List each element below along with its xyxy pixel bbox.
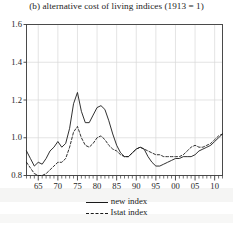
chart-plot-area	[0, 0, 233, 229]
y-tick-label: 0.8	[0, 171, 22, 180]
x-tick-label: 10	[205, 182, 225, 191]
x-tick-label: 65	[28, 182, 48, 191]
chart-legend: new index Istat index	[0, 196, 233, 219]
x-tick-label: 05	[185, 182, 205, 191]
legend-label-istat-index: Istat index	[111, 208, 148, 218]
x-tick-label: 85	[107, 182, 127, 191]
x-tick-label: 90	[126, 182, 146, 191]
series-line-istat-index	[27, 126, 223, 175]
series-line-new-index	[27, 92, 223, 166]
y-tick-label: 1.4	[0, 58, 22, 67]
cost-of-living-chart-figure: (b) alternative cost of living indices (…	[0, 0, 233, 229]
y-tick-label: 1.6	[0, 20, 22, 29]
gridlines	[27, 25, 223, 176]
x-tick-label: 80	[87, 182, 107, 191]
data-series-layer	[27, 92, 223, 175]
x-tick-label: 00	[165, 182, 185, 191]
legend-label-new-index: new index	[111, 196, 147, 206]
legend-item-new-index: new index	[0, 196, 233, 207]
legend-line-dashed-icon	[86, 210, 108, 216]
y-tick-label: 1.2	[0, 96, 22, 105]
x-tick-label: 70	[48, 182, 68, 191]
y-tick-label: 1.0	[0, 133, 22, 142]
legend-item-istat-index: Istat index	[0, 207, 233, 218]
axis-ticks	[24, 25, 223, 181]
x-tick-label: 95	[146, 182, 166, 191]
x-tick-label: 75	[67, 182, 87, 191]
legend-line-solid-icon	[86, 199, 108, 205]
